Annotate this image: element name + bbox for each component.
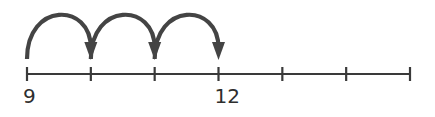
jump-arc bbox=[155, 15, 219, 59]
tick-label-end: 12 bbox=[215, 84, 240, 108]
arrowhead-icon bbox=[212, 42, 225, 60]
tick-label-start: 9 bbox=[23, 84, 36, 108]
jump-arc bbox=[27, 15, 91, 59]
jump-arcs bbox=[27, 15, 225, 60]
tick-labels: 9 12 bbox=[23, 84, 240, 108]
number-line-svg: 9 12 bbox=[0, 0, 435, 117]
number-line-diagram: 9 12 bbox=[0, 0, 435, 117]
jump-arc bbox=[91, 15, 155, 59]
